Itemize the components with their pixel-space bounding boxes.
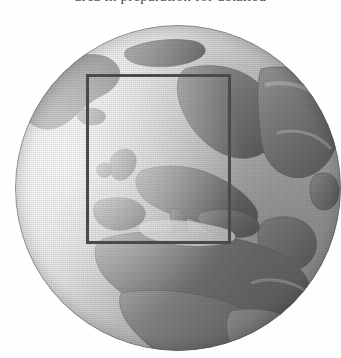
globe-figure bbox=[0, 0, 341, 358]
east-limb-land-shape bbox=[310, 173, 339, 210]
study-area-rectangle bbox=[86, 74, 231, 244]
central-africa-shape bbox=[227, 309, 311, 351]
